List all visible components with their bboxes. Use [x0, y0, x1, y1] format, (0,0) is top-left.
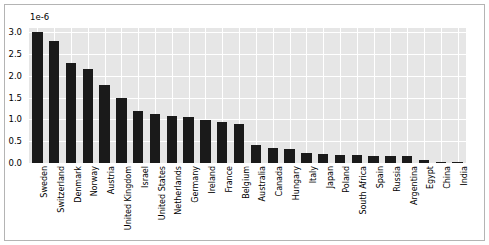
bar-slot — [150, 28, 160, 163]
bar — [385, 156, 395, 163]
x-axis-tick-label: Hungary — [293, 166, 301, 200]
bar — [368, 156, 378, 163]
y-axis-tick-label: 2.5 — [8, 50, 22, 59]
bar — [436, 162, 446, 163]
bar-slot — [234, 28, 244, 163]
x-axis-tick-label-text: India — [461, 166, 469, 186]
x-axis-tick-label: Poland — [343, 166, 351, 193]
bar-slot — [99, 28, 109, 163]
bar-slot — [217, 28, 227, 163]
x-axis-tick-label: Norway — [91, 166, 99, 196]
bar-slot — [436, 28, 446, 163]
x-axis-tick-label: France — [226, 166, 234, 193]
bar — [32, 32, 42, 163]
x-axis-tick-label: Sweden — [41, 166, 49, 198]
x-axis-tick-label-text: Australia — [259, 166, 267, 201]
bar-series — [29, 28, 466, 163]
bar-slot — [368, 28, 378, 163]
bar-slot — [352, 28, 362, 163]
bar — [66, 63, 76, 163]
x-axis-tick-label-text: Argentina — [411, 166, 419, 205]
bar — [251, 145, 261, 163]
figure: 1e-6 0.00.51.01.52.02.53.0 SwedenSwitzer… — [0, 0, 489, 245]
x-axis-tick-label-text: Denmark — [75, 166, 83, 203]
x-axis-tick-label: Argentina — [411, 166, 419, 205]
bar — [167, 116, 177, 163]
x-axis-tick-label-text: United States — [159, 166, 167, 220]
y-axis-tick-label: 0.0 — [8, 159, 22, 168]
x-axis-tick-label: Ireland — [209, 166, 217, 194]
x-axis-tick-label: Spain — [377, 166, 385, 188]
bar-slot — [83, 28, 93, 163]
x-axis-tick-label: Egypt — [427, 166, 435, 189]
x-axis-tick-label: South Africa — [360, 166, 368, 215]
x-axis-tick-label: Austria — [108, 166, 116, 194]
bar — [335, 155, 345, 163]
x-axis-tick-label: Switzerland — [58, 166, 66, 213]
y-axis-tick-label: 1.0 — [8, 115, 22, 124]
x-axis-tick-label-text: Ireland — [209, 166, 217, 194]
x-axis-tick-label: Japan — [327, 166, 335, 188]
bar — [150, 114, 160, 163]
x-axis-tick-label: Germany — [192, 166, 200, 203]
x-axis-tick-label-text: Germany — [192, 166, 200, 203]
y-axis-tick-label: 0.5 — [8, 137, 22, 146]
bar-slot — [200, 28, 210, 163]
x-axis-tick-label-text: France — [226, 166, 234, 193]
x-axis-tick-label-text: Israel — [142, 166, 150, 188]
x-axis-tick-label-text: Austria — [108, 166, 116, 194]
x-axis-tick-label-text: China — [444, 166, 452, 189]
x-axis-tick-label-text: Switzerland — [58, 166, 66, 213]
bar — [234, 124, 244, 163]
x-axis-tick-label: Israel — [142, 166, 150, 188]
bar — [352, 155, 362, 163]
x-axis-tick-label: Netherlands — [175, 166, 183, 215]
x-axis-tick-label: Australia — [259, 166, 267, 201]
x-axis-tick-label-text: Poland — [343, 166, 351, 193]
x-axis-tick-label: Denmark — [75, 166, 83, 203]
bar-slot — [167, 28, 177, 163]
bar — [99, 85, 109, 163]
x-axis-tick-label: Russia — [394, 166, 402, 192]
bar-slot — [452, 28, 462, 163]
bar-slot — [284, 28, 294, 163]
bar — [133, 111, 143, 163]
bar-slot — [268, 28, 278, 163]
x-axis-tick-label: Belgium — [243, 166, 251, 199]
x-axis-tick-label-text: Japan — [327, 166, 335, 188]
x-axis-tick-label-text: Hungary — [293, 166, 301, 200]
bar — [268, 148, 278, 163]
bar-slot — [133, 28, 143, 163]
bar — [452, 162, 462, 163]
bar — [183, 117, 193, 163]
x-axis-tick-label-text: Netherlands — [175, 166, 183, 215]
bar-slot — [66, 28, 76, 163]
bar-slot — [385, 28, 395, 163]
bar-slot — [335, 28, 345, 163]
plot-area — [29, 28, 466, 163]
y-axis-tick-label: 1.5 — [8, 93, 22, 102]
x-axis-tick-label-text: Italy — [310, 166, 318, 183]
bar — [284, 149, 294, 163]
bar-slot — [318, 28, 328, 163]
x-axis-tick-label-text: Norway — [91, 166, 99, 196]
x-axis-tick-label-text: Sweden — [41, 166, 49, 198]
x-axis-tick-label-text: Canada — [276, 166, 284, 196]
bar — [83, 69, 93, 163]
bar-slot — [419, 28, 429, 163]
bar-slot — [32, 28, 42, 163]
x-axis-tick-label: India — [461, 166, 469, 186]
y-axis-tick-label: 3.0 — [8, 28, 22, 37]
bar — [318, 154, 328, 163]
x-axis-tick-label: United Kingdom — [125, 166, 133, 230]
y-axis-exponent-label: 1e-6 — [30, 13, 49, 22]
bar-slot — [301, 28, 311, 163]
y-axis-tick-labels: 0.00.51.01.52.02.53.0 — [0, 28, 26, 163]
x-axis-tick-label: China — [444, 166, 452, 189]
x-axis-tick-label-text: United Kingdom — [125, 166, 133, 230]
x-axis-tick-label-text: Egypt — [427, 166, 435, 189]
bar-slot — [251, 28, 261, 163]
x-axis-tick-label-text: South Africa — [360, 166, 368, 215]
y-axis-tick-label: 2.0 — [8, 72, 22, 81]
x-axis-tick-label: Italy — [310, 166, 318, 183]
